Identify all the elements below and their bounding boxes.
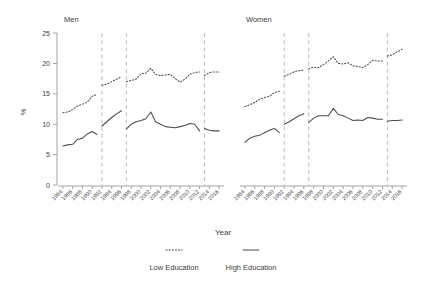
- series-line-low-education: [204, 72, 219, 76]
- x-tick-label: 2016: [207, 188, 220, 201]
- line-chart: Men Women % Year 25201510501984198619881…: [0, 0, 447, 284]
- series-line-low-education: [284, 70, 304, 76]
- series-line-high-education: [63, 132, 97, 147]
- series-line-high-education: [204, 128, 219, 130]
- legend-label-low-education: Low Education: [149, 263, 198, 272]
- y-tick-label: 5: [46, 151, 50, 158]
- chart-figure: Men Women % Year 25201510501984198619881…: [0, 0, 447, 284]
- series-line-high-education: [309, 108, 383, 122]
- y-tick-label: 15: [42, 90, 50, 97]
- series-line-high-education: [102, 111, 122, 126]
- panel-title-women: Women: [246, 15, 272, 24]
- series-line-high-education: [387, 120, 402, 121]
- plot-area: 2520151050198419861988199019921994199619…: [42, 30, 407, 202]
- series-line-low-education: [63, 94, 97, 112]
- series-line-low-education: [387, 49, 402, 56]
- series-line-high-education: [126, 112, 199, 131]
- panel-title-men: Men: [64, 15, 79, 24]
- series-line-low-education: [309, 57, 383, 69]
- series-line-low-education: [245, 91, 279, 106]
- series-line-low-education: [126, 68, 199, 82]
- x-axis-title: Year: [215, 228, 232, 237]
- y-axis-title: %: [19, 108, 28, 115]
- legend-label-high-education: High Education: [226, 263, 277, 272]
- y-tick-label: 10: [42, 121, 50, 128]
- series-line-low-education: [102, 77, 122, 86]
- series-line-high-education: [245, 128, 279, 142]
- x-tick-label: 2016: [390, 188, 403, 201]
- series-line-high-education: [284, 114, 304, 124]
- y-tick-label: 20: [42, 60, 50, 67]
- chart-legend: Low Education High Education: [149, 250, 276, 272]
- y-tick-label: 25: [42, 30, 50, 37]
- y-tick-label: 0: [46, 182, 50, 189]
